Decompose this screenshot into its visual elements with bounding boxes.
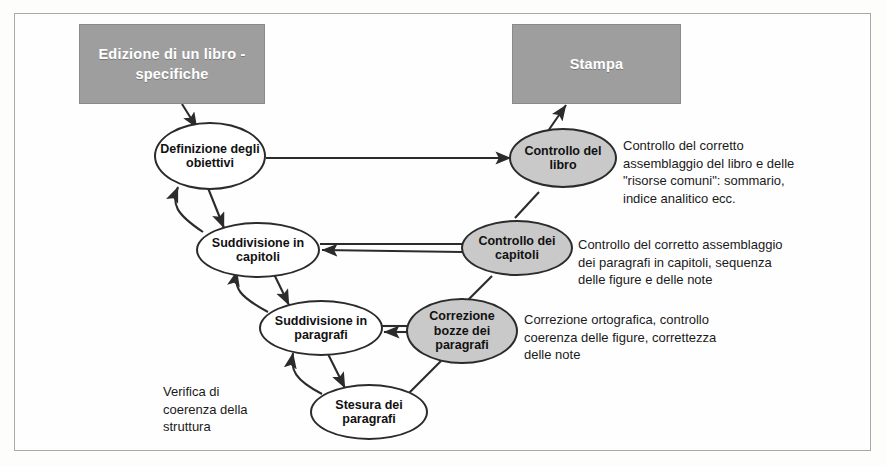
edge-obiettivi-to-capitoli xyxy=(208,188,224,228)
node-definizione-obiettivi: Definizione degli obiettivi xyxy=(154,122,266,190)
diagram-canvas: Edizione di un libro - specifiche Stampa… xyxy=(0,0,887,467)
note-correzione-bozze: Correzione ortografica, controllo coeren… xyxy=(524,311,809,364)
node-controllo-capitoli: Controllo dei capitoli xyxy=(461,220,573,276)
edge-stesura-to-correzione xyxy=(406,361,441,396)
node-correzione-bozze-label: Correzione bozze dei paragrafi xyxy=(408,309,516,353)
node-suddivisione-paragrafi-label: Suddivisione in paragrafi xyxy=(261,314,381,343)
node-stesura-paragrafi: Stesura dei paragrafi xyxy=(310,384,428,440)
edge-paragrafi-to-stesura xyxy=(327,352,345,388)
node-controllo-libro: Controllo del libro xyxy=(509,128,617,188)
note-verifica-coerenza: Verifica di coerenza della struttura xyxy=(163,383,313,436)
node-controllo-capitoli-label: Controllo dei capitoli xyxy=(463,234,571,263)
edge-correzione-to-ctrlcapitoli xyxy=(468,276,492,300)
node-correzione-bozze: Correzione bozze dei paragrafi xyxy=(406,298,518,364)
box-end: Stampa xyxy=(512,24,681,104)
box-start-label: Edizione di un libro - specifiche xyxy=(80,44,264,84)
box-end-label: Stampa xyxy=(570,54,624,74)
node-suddivisione-paragrafi: Suddivisione in paragrafi xyxy=(259,300,383,356)
edge-ctrlcapitoli-to-ctrllibro xyxy=(515,192,539,218)
node-controllo-libro-label: Controllo del libro xyxy=(511,144,615,173)
edge-ctrlcapitoli-to-capitoli xyxy=(322,250,462,252)
edge-capitoli-feedback-obiettivi xyxy=(175,187,203,232)
box-start: Edizione di un libro - specifiche xyxy=(79,24,265,104)
node-definizione-obiettivi-label: Definizione degli obiettivi xyxy=(156,142,264,171)
node-stesura-paragrafi-label: Stesura dei paragrafi xyxy=(312,398,426,427)
node-suddivisione-capitoli-label: Suddivisione in capitoli xyxy=(198,236,318,265)
node-suddivisione-capitoli: Suddivisione in capitoli xyxy=(196,222,320,278)
note-controllo-capitoli: Controllo del corretto assemblaggio dei … xyxy=(578,236,863,289)
note-controllo-libro: Controllo del corretto assemblaggio del … xyxy=(623,137,858,207)
